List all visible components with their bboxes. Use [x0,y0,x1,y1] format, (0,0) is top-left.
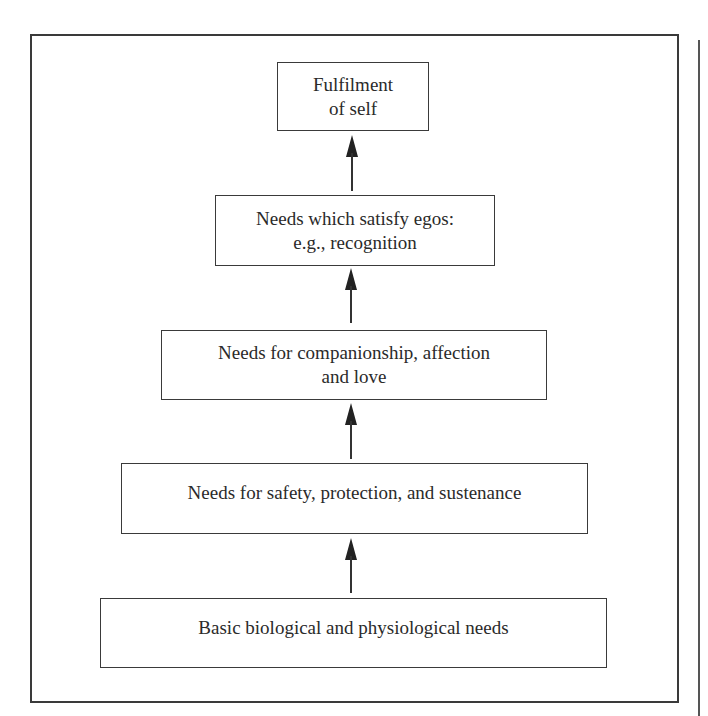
box-ego-needs: Needs which satisfy egos: e.g., recognit… [215,195,495,266]
box-label-line: Needs for safety, protection, and susten… [188,481,522,505]
arrow-up-icon [341,538,361,593]
box-label-line: e.g., recognition [293,231,416,255]
box-label-line: Needs which satisfy egos: [256,207,454,231]
box-label-line: of self [329,97,377,121]
arrow-up-icon [341,403,361,459]
box-label-line: Basic biological and physiological needs [198,616,508,640]
box-safety-needs: Needs for safety, protection, and susten… [121,463,588,534]
page-edge-rule [698,40,700,716]
arrow-up-icon [342,135,362,191]
box-label-line: Needs for companionship, affection [218,341,490,365]
box-companionship-needs: Needs for companionship, affection and l… [161,330,547,400]
box-label-line: Fulfilment [313,73,393,97]
box-label-line: and love [322,365,387,389]
arrow-up-icon [341,268,361,323]
box-biological-needs: Basic biological and physiological needs [100,598,607,668]
box-fulfilment-of-self: Fulfilment of self [277,62,429,131]
